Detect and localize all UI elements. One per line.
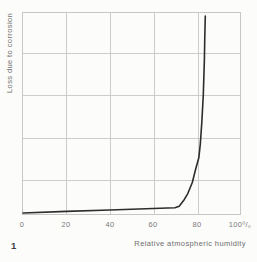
corrosion-humidity-chart: Loss due to corrosion 0 20 40 60 80 100⁰… — [0, 0, 257, 262]
x-tick-60: 60 — [135, 220, 171, 229]
corrosion-curve-canvas — [23, 13, 240, 214]
corrosion-curve — [23, 16, 205, 213]
x-tick-20: 20 — [48, 220, 84, 229]
x-axis-label: Relative atmospheric humidity — [134, 239, 246, 248]
y-axis-label: Loss due to corrosion — [5, 13, 14, 93]
plot-area — [22, 12, 241, 215]
x-tick-40: 40 — [92, 220, 128, 229]
figure-number: 1 — [11, 240, 16, 251]
x-tick-0: 0 — [4, 220, 40, 229]
x-tick-80: 80 — [179, 220, 215, 229]
x-tick-100: 100⁰/₀ — [222, 220, 257, 229]
